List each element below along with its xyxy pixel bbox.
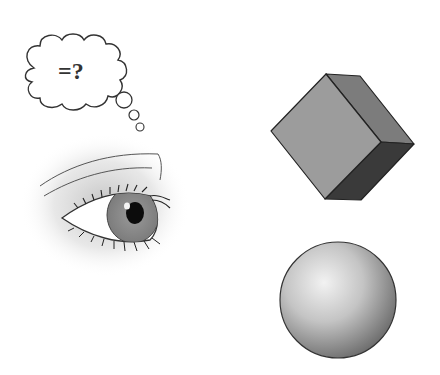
thought-bubble — [25, 34, 144, 131]
sphere-figure — [280, 242, 396, 358]
eye-figure — [20, 133, 190, 277]
illustration — [0, 0, 440, 375]
cube-figure — [271, 74, 414, 200]
thought-bubble-text: =? — [58, 58, 84, 85]
